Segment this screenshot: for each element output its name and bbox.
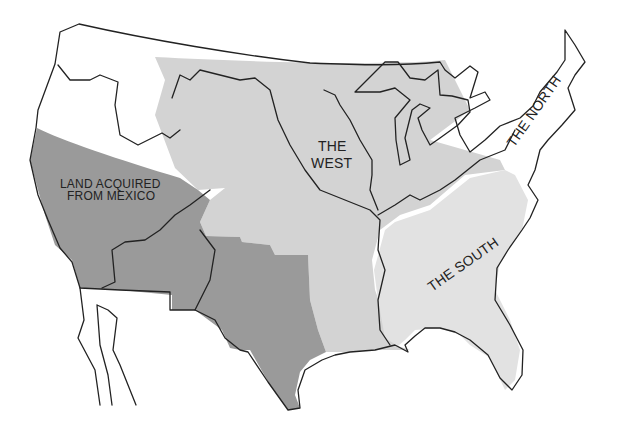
label-west-line2: WEST <box>311 155 352 171</box>
us-regions-map: LAND ACQUIRED FROM MEXICO THE WEST THE S… <box>0 0 618 437</box>
label-west-line1: THE <box>318 138 347 154</box>
label-mexico-line2: FROM MEXICO <box>67 189 155 203</box>
label-north: THE NORTH <box>503 72 564 149</box>
baja-peninsula <box>78 288 136 405</box>
